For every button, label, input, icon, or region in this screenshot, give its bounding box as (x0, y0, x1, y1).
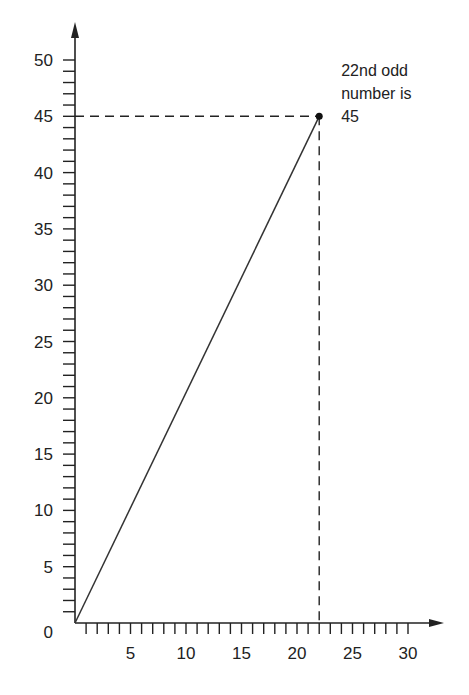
y-axis-arrow-icon (71, 22, 79, 38)
axis-ticks (63, 60, 408, 634)
x-tick-label: 5 (126, 644, 135, 663)
y-tick-label: 25 (34, 333, 53, 352)
x-tick-label: 20 (288, 644, 307, 663)
x-tick-label: 15 (232, 644, 251, 663)
y-tick-label: 40 (34, 164, 53, 183)
y-tick-label: 35 (34, 220, 53, 239)
y-tick-label: 15 (34, 445, 53, 464)
annotation-line: 22nd odd (341, 62, 408, 79)
annotation-line: number is (341, 85, 411, 102)
line-chart: 0510152025303540455051015202530 22nd odd… (0, 0, 469, 695)
highlight-point (316, 113, 323, 120)
x-tick-label: 25 (343, 644, 362, 663)
data-series (75, 113, 323, 623)
annotation: 22nd oddnumber is45 (341, 62, 411, 125)
x-axis-arrow-icon (429, 619, 444, 627)
annotation-line: 45 (341, 108, 359, 125)
y-tick-label: 50 (34, 51, 53, 70)
x-tick-label: 30 (399, 644, 418, 663)
y-tick-label: 5 (44, 558, 53, 577)
y-tick-label: 30 (34, 276, 53, 295)
axes (71, 22, 444, 627)
tick-labels: 0510152025303540455051015202530 (34, 51, 417, 663)
x-tick-label: 10 (177, 644, 196, 663)
series-line (75, 116, 319, 623)
chart: 0510152025303540455051015202530 22nd odd… (0, 0, 469, 695)
y-tick-label: 20 (34, 389, 53, 408)
y-tick-label: 10 (34, 501, 53, 520)
y-tick-label: 45 (34, 107, 53, 126)
y-tick-label: 0 (44, 623, 53, 642)
